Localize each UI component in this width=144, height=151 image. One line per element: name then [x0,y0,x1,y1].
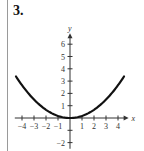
y-axis-arrow-icon [68,33,73,38]
y-tick-label: 1 [61,102,65,111]
x-tick-label: 2 [92,122,96,131]
y-tick-label: 4 [61,65,65,74]
x-tick-label: −2 [42,122,51,131]
x-tick-label: −3 [30,122,39,131]
y-tick-label: 6 [61,40,65,49]
x-tick-label: 1 [80,122,84,131]
y-tick-label: −2 [56,139,65,148]
x-tick-label: −1 [54,122,63,131]
x-tick-label: −4 [18,122,27,131]
y-tick-label: 3 [61,77,65,86]
x-tick-label: 4 [116,122,120,131]
x-tick-label: 3 [104,122,108,131]
y-axis-label: y [67,24,72,33]
x-axis-arrow-icon [124,116,129,121]
parabola-plot: xy−4−3−2−11234−2123456 [0,0,144,151]
y-tick-label: 5 [61,53,65,62]
y-tick-label: 2 [61,89,65,98]
x-axis-label: x [131,114,136,123]
